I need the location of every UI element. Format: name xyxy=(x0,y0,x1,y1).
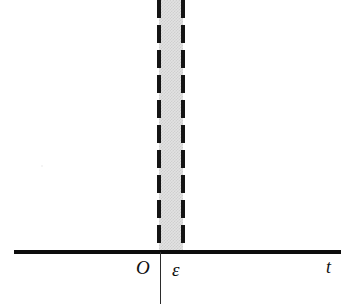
dashed-boundary-left xyxy=(157,0,161,253)
horizontal-axis xyxy=(14,250,341,254)
scan-speck xyxy=(41,165,43,167)
shaded-impulse-band xyxy=(159,0,183,252)
vertical-axis-lower-segment xyxy=(160,252,161,304)
epsilon-label: ε xyxy=(172,260,180,279)
epsilon-band-figure: O ε t xyxy=(0,0,356,304)
origin-label: O xyxy=(136,258,150,277)
plot-surface: O ε t xyxy=(0,0,356,304)
t-axis-label: t xyxy=(326,258,331,276)
dashed-boundary-right xyxy=(181,0,185,253)
